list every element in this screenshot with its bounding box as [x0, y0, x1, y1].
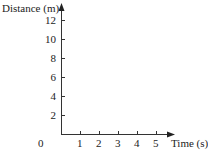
- y-tick-label: 6: [44, 72, 56, 83]
- x-axis-label: Time (s): [171, 138, 208, 149]
- x-tick-label: 2: [96, 138, 102, 149]
- origin-label: 0: [38, 138, 44, 149]
- x-tick-label: 1: [77, 138, 83, 149]
- x-tick-label: 3: [115, 138, 121, 149]
- y-tick-label: 2: [44, 110, 56, 121]
- y-tick-label: 12: [44, 15, 56, 26]
- y-tick-label: 8: [44, 53, 56, 64]
- axes: [0, 0, 208, 153]
- x-tick-label: 4: [134, 138, 140, 149]
- x-tick-label: 5: [153, 138, 159, 149]
- y-tick-label: 4: [44, 91, 56, 102]
- y-axis-label: Distance (m): [2, 3, 59, 14]
- y-axis-arrow-icon: [59, 3, 65, 11]
- y-tick-label: 10: [44, 34, 56, 45]
